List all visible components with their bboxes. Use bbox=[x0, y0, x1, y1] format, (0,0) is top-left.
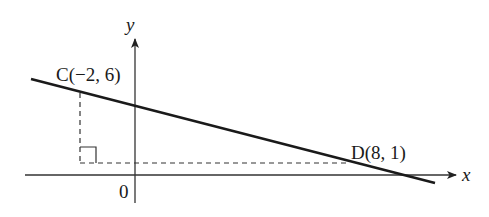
coordinate-diagram: y x 0 C(−2, 6) D(8, 1) bbox=[0, 0, 489, 217]
point-c-label: C(−2, 6) bbox=[56, 64, 121, 86]
right-angle-marker bbox=[80, 147, 96, 163]
point-d-label: D(8, 1) bbox=[351, 142, 406, 164]
y-axis-label: y bbox=[124, 14, 135, 35]
x-axis-label: x bbox=[461, 164, 471, 185]
line-cd bbox=[31, 79, 435, 183]
origin-label: 0 bbox=[119, 181, 129, 202]
